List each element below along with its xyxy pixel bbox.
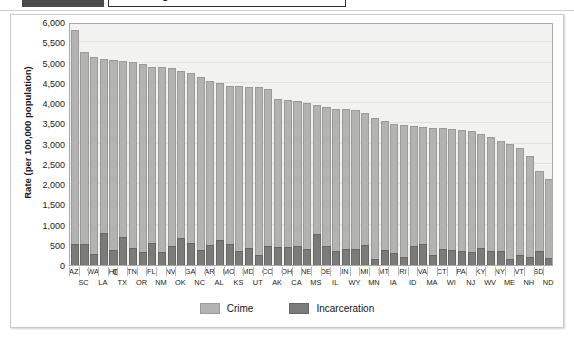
bar-crime[interactable] [235, 86, 243, 265]
bar-group[interactable] [70, 24, 80, 265]
bar-incarceration[interactable] [439, 249, 447, 265]
bar-incarceration[interactable] [448, 250, 456, 265]
legend-item[interactable]: Incarceration [289, 303, 374, 314]
bar-group[interactable] [176, 24, 186, 265]
bar-group[interactable] [196, 24, 206, 265]
bar-group[interactable] [99, 24, 109, 265]
bar-incarceration[interactable] [90, 254, 98, 265]
bar-incarceration[interactable] [468, 252, 476, 265]
bar-incarceration[interactable] [361, 245, 369, 265]
bar-incarceration[interactable] [371, 259, 379, 265]
bar-crime[interactable] [332, 109, 340, 265]
bar-group[interactable] [341, 24, 351, 265]
bar-crime[interactable] [322, 107, 330, 265]
bar-group[interactable] [389, 24, 399, 265]
bar-crime[interactable] [226, 86, 234, 265]
bar-crime[interactable] [148, 67, 156, 265]
bar-group[interactable] [206, 24, 216, 265]
bar-crime[interactable] [400, 125, 408, 265]
bar-crime[interactable] [458, 130, 466, 265]
bar-group[interactable] [293, 24, 303, 265]
bar-group[interactable] [312, 24, 322, 265]
bar-group[interactable] [167, 24, 177, 265]
bar-crime[interactable] [168, 68, 176, 265]
bar-crime[interactable] [187, 73, 195, 265]
bar-incarceration[interactable] [119, 237, 127, 265]
bar-group[interactable] [515, 24, 525, 265]
bar-group[interactable] [80, 24, 90, 265]
bar-crime[interactable] [197, 77, 205, 265]
bar-group[interactable] [380, 24, 390, 265]
bar-crime[interactable] [545, 179, 553, 265]
bar-incarceration[interactable] [419, 244, 427, 265]
bar-group[interactable] [399, 24, 409, 265]
bar-crime[interactable] [487, 137, 495, 265]
bar-group[interactable] [448, 24, 458, 265]
bar-incarceration[interactable] [429, 255, 437, 265]
bar-crime[interactable] [303, 103, 311, 265]
bar-incarceration[interactable] [226, 244, 234, 265]
bar-incarceration[interactable] [497, 251, 505, 265]
bar-crime[interactable] [71, 30, 79, 265]
bar-incarceration[interactable] [235, 251, 243, 265]
bar-group[interactable] [235, 24, 245, 265]
bar-incarceration[interactable] [322, 246, 330, 265]
bar-group[interactable] [486, 24, 496, 265]
bar-group[interactable] [283, 24, 293, 265]
bar-incarceration[interactable] [477, 248, 485, 265]
bar-group[interactable] [496, 24, 506, 265]
bar-incarceration[interactable] [206, 245, 214, 265]
bar-crime[interactable] [129, 62, 137, 265]
bar-group[interactable] [457, 24, 467, 265]
bar-crime[interactable] [477, 134, 485, 265]
bar-crime[interactable] [468, 131, 476, 265]
bar-crime[interactable] [216, 83, 224, 265]
bar-group[interactable] [89, 24, 99, 265]
bar-group[interactable] [418, 24, 428, 265]
bar-crime[interactable] [119, 61, 127, 265]
bar-crime[interactable] [429, 128, 437, 265]
bar-crime[interactable] [90, 57, 98, 265]
bar-crime[interactable] [177, 71, 185, 265]
bar-group[interactable] [477, 24, 487, 265]
bar-crime[interactable] [274, 99, 282, 265]
bar-group[interactable] [438, 24, 448, 265]
bar-group[interactable] [370, 24, 380, 265]
bar-crime[interactable] [497, 141, 505, 265]
bar-incarceration[interactable] [168, 246, 176, 265]
bar-incarceration[interactable] [148, 243, 156, 265]
bar-incarceration[interactable] [139, 252, 147, 265]
bar-incarceration[interactable] [274, 247, 282, 265]
bar-incarceration[interactable] [516, 255, 524, 265]
bar-incarceration[interactable] [245, 248, 253, 265]
bar-group[interactable] [118, 24, 128, 265]
bar-incarceration[interactable] [313, 234, 321, 265]
bar-group[interactable] [331, 24, 341, 265]
bar-crime[interactable] [371, 118, 379, 265]
bar-incarceration[interactable] [506, 259, 514, 265]
bar-crime[interactable] [390, 124, 398, 265]
bar-incarceration[interactable] [80, 244, 88, 265]
bar-incarceration[interactable] [255, 255, 263, 265]
bar-crime[interactable] [448, 129, 456, 265]
bar-group[interactable] [138, 24, 148, 265]
bar-incarceration[interactable] [109, 250, 117, 265]
bar-group[interactable] [428, 24, 438, 265]
bar-group[interactable] [254, 24, 264, 265]
bar-incarceration[interactable] [545, 258, 553, 265]
bar-incarceration[interactable] [216, 240, 224, 265]
bar-crime[interactable] [526, 156, 534, 265]
bar-incarceration[interactable] [487, 251, 495, 265]
bar-incarceration[interactable] [458, 251, 466, 265]
bar-crime[interactable] [80, 52, 88, 265]
bar-group[interactable] [360, 24, 370, 265]
bar-crime[interactable] [245, 87, 253, 265]
bar-group[interactable] [244, 24, 254, 265]
bar-incarceration[interactable] [100, 233, 108, 265]
bar-crime[interactable] [264, 89, 272, 265]
bar-incarceration[interactable] [303, 249, 311, 265]
bar-incarceration[interactable] [158, 252, 166, 265]
bar-group[interactable] [186, 24, 196, 265]
bar-incarceration[interactable] [71, 244, 79, 265]
bar-incarceration[interactable] [381, 250, 389, 265]
